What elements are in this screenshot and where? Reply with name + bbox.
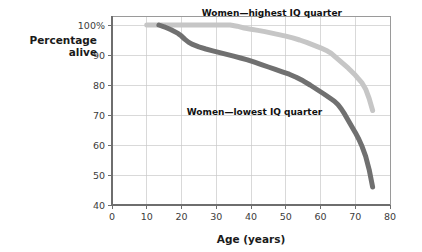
y-axis-title-line1: Percentage (29, 34, 97, 46)
y-tick-label: 70 (93, 110, 105, 121)
x-tick-label: 60 (314, 211, 326, 222)
series-label-highest-iq: Women—highest IQ quarter (202, 8, 343, 18)
x-tick-label: 30 (210, 211, 222, 222)
x-tick-label: 10 (141, 211, 153, 222)
x-axis-tick-labels: 01020304050607080 (109, 211, 396, 222)
x-tick-label: 20 (175, 211, 187, 222)
y-tick-label: 40 (93, 200, 105, 211)
y-tick-label: 100% (78, 20, 105, 31)
x-tick-label: 50 (280, 211, 292, 222)
x-axis-title: Age (years) (217, 233, 286, 245)
chart-figure: 01020304050607080 405060708090100% Women… (0, 0, 422, 252)
y-tick-label: 50 (93, 170, 105, 181)
x-tick-label: 40 (245, 211, 257, 222)
x-tick-label: 0 (109, 211, 115, 222)
y-axis-title-line2: alive (69, 46, 97, 58)
series-label-lowest-iq: Women—lowest IQ quarter (187, 107, 323, 117)
y-tick-label: 80 (93, 80, 105, 91)
y-tick-label: 60 (93, 140, 105, 151)
x-tick-label: 70 (349, 211, 361, 222)
x-tick-label: 80 (384, 211, 396, 222)
